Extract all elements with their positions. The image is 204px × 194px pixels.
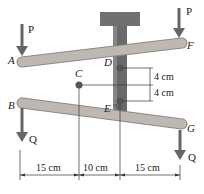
label-F: F: [187, 40, 194, 51]
dim-4cm-upper: 4 cm: [154, 72, 174, 82]
label-E: E: [104, 103, 111, 114]
bar-AF: [22, 43, 182, 62]
force-label-P-right: P: [186, 6, 192, 17]
label-B: B: [8, 100, 15, 111]
dim-4cm-lower: 4 cm: [154, 88, 174, 98]
pin-C: [76, 82, 83, 89]
label-A: A: [8, 55, 15, 66]
force-arrows: [16, 8, 186, 160]
dim-15cm-left: 15 cm: [36, 163, 61, 173]
dim-10cm: 10 cm: [83, 163, 108, 173]
force-label-P-left: P: [28, 24, 34, 35]
label-D: D: [104, 57, 112, 68]
force-label-Q-left: Q: [29, 134, 37, 145]
label-C: C: [75, 68, 82, 79]
label-G: G: [187, 123, 195, 134]
force-label-Q-right: Q: [188, 152, 196, 163]
dim-15cm-right: 15 cm: [135, 163, 160, 173]
